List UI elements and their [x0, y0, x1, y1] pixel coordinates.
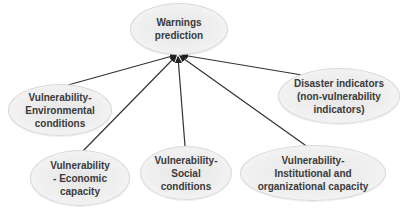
node-warnings-prediction: Warnings prediction [130, 3, 228, 55]
node-label: Warnings prediction [155, 16, 203, 42]
edge-social-to-warnings [178, 57, 185, 146]
node-label: Disaster indicators (non-vulnerability i… [294, 77, 384, 116]
edge-disaster-to-warnings [182, 55, 302, 75]
edge-environmental-to-warnings [68, 55, 176, 85]
node-label: Vulnerability - Economic capacity [50, 159, 110, 198]
node-social-conditions: Vulnerability- Social conditions [140, 146, 232, 200]
node-label: Vulnerability- Environmental conditions [25, 91, 94, 130]
node-label: Vulnerability- Social conditions [155, 154, 218, 193]
node-institutional-capacity: Vulnerability- Institutional and organiz… [240, 145, 386, 201]
node-disaster-indicators: Disaster indicators (non-vulnerability i… [278, 68, 400, 124]
node-environmental-conditions: Vulnerability- Environmental conditions [8, 84, 112, 136]
node-label: Vulnerability- Institutional and organiz… [258, 154, 369, 193]
node-economic-capacity: Vulnerability - Economic capacity [30, 150, 130, 206]
